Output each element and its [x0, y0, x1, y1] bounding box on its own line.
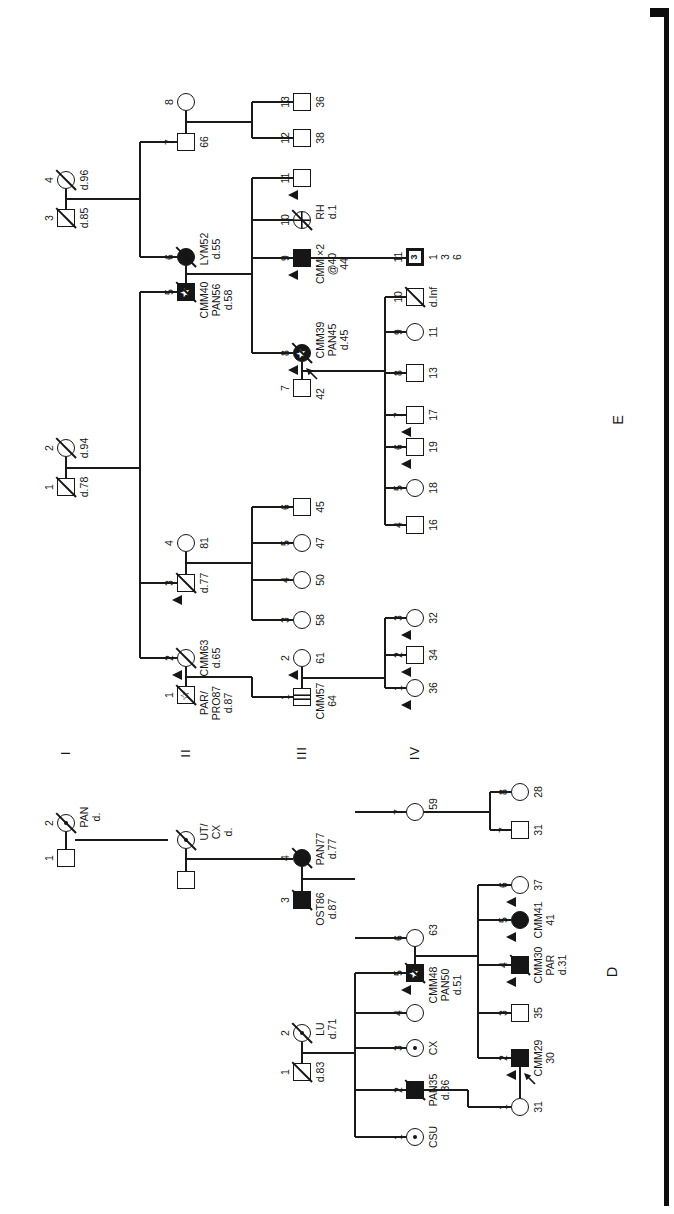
female-symbol	[511, 911, 529, 929]
individual-number: 1	[279, 675, 291, 719]
annotation-line: 32	[427, 576, 439, 660]
dysplastic-nevi-triangle-icon	[506, 897, 516, 907]
person-e-iv-8: 813	[406, 351, 424, 395]
person-e-ii-6: 6LYM52d.55	[177, 235, 195, 279]
person-d-v-8: 828	[511, 770, 529, 814]
annotation-line: 3	[439, 215, 451, 299]
male-symbol	[177, 133, 195, 151]
male-symbol	[406, 406, 424, 424]
person-annotation: d.94	[78, 406, 90, 490]
female-symbol	[511, 1098, 529, 1116]
generation-label-I: I	[58, 739, 73, 767]
annotation-line: d.1	[326, 170, 338, 254]
person-e-iii-11: 11	[293, 156, 311, 200]
female-symbol	[406, 323, 424, 341]
person-d-iv-4: 4	[406, 991, 424, 1035]
dysplastic-nevi-triangle-icon	[506, 932, 516, 942]
person-d-ii-spouse	[177, 858, 195, 902]
individual-number: 7	[163, 120, 175, 164]
male-symbol	[293, 498, 311, 516]
person-d-v-3: 335	[511, 991, 529, 1035]
person-annotation: LUd.71	[314, 987, 338, 1071]
individual-number: 2	[43, 801, 55, 845]
annotation-line: 28	[532, 750, 544, 834]
pedigree-line	[251, 102, 253, 138]
annotation-line: d.31	[556, 923, 568, 1007]
person-annotation: 59	[427, 762, 439, 846]
person-annotation: PAN77d.77	[314, 807, 338, 891]
individual-number: 1	[497, 1085, 509, 1129]
annotation-line: 44	[338, 222, 350, 306]
individual-number: 8	[392, 351, 404, 395]
person-d-iii-3: 3OST86d.87	[293, 878, 311, 922]
dysplastic-nevi-triangle-icon	[401, 459, 411, 469]
individual-number: 13	[279, 80, 291, 124]
person-annotation: 136	[427, 215, 463, 299]
person-e-iv-10: 10d.Inf	[406, 275, 424, 319]
individual-number: 1	[43, 465, 55, 509]
person-d-ii-spouse: UT/CXd.	[177, 818, 195, 862]
person-annotation: UT/CXd.	[198, 790, 234, 874]
annotation-line: PAN45	[326, 298, 338, 382]
annotation-line: d.96	[78, 138, 90, 222]
pedigree-line	[251, 178, 253, 353]
female-symbol	[293, 611, 311, 629]
annotation-line: d.55	[210, 207, 222, 291]
person-e-iii-13: 1336	[293, 80, 311, 124]
female-symbol	[406, 929, 424, 947]
annotation-line: 81	[198, 501, 210, 585]
annotation-line: LYM52	[198, 207, 210, 291]
dysplastic-nevi-triangle-icon	[401, 985, 411, 995]
annotation-line: CMM63	[198, 616, 210, 700]
person-e-iii-8: 8★CMM39PAN45d.45	[293, 331, 311, 375]
person-annotation: 45	[314, 465, 326, 549]
individual-number: 2	[43, 426, 55, 470]
person-e-i-3: 3d.85	[57, 196, 75, 240]
annotation-line: d.	[90, 775, 102, 859]
person-d-iv-7: 759	[406, 790, 424, 834]
generation-label-IV: IV	[407, 739, 422, 767]
person-d-i-2: 2PANd.	[57, 801, 75, 845]
female-symbol	[406, 1039, 424, 1057]
person-d-v-7: 731	[511, 808, 529, 852]
person-e-iii-3: 358	[293, 598, 311, 642]
individual-number: 8	[163, 80, 175, 124]
male-symbol	[293, 379, 311, 397]
annotation-line: PAN50	[439, 943, 451, 1027]
annotation-line: d.94	[78, 406, 90, 490]
male-symbol	[293, 93, 311, 111]
dysplastic-nevi-triangle-icon	[288, 270, 298, 280]
female-symbol	[406, 609, 424, 627]
male-symbol	[511, 1049, 529, 1067]
person-d-v-2: 2CMM2930	[511, 1036, 529, 1080]
pedigree-line	[467, 1090, 469, 1107]
annotation-line: PAN77	[314, 807, 326, 891]
annotation-line: UT/	[198, 790, 210, 874]
dysplastic-nevi-triangle-icon	[288, 190, 298, 200]
person-d-v-1: 131	[511, 1085, 529, 1129]
person-annotation: 36	[314, 60, 326, 144]
person-annotation: LYM52d.55	[198, 207, 222, 291]
individual-number: 6	[279, 485, 291, 529]
pedigree-e-label: E	[610, 405, 626, 435]
person-annotation: 28	[532, 750, 544, 834]
annotation-line: d.65	[210, 616, 222, 700]
person-d-iv-6: 663	[406, 916, 424, 960]
pedigree-line	[186, 562, 252, 564]
person-e-iii-6: 645	[293, 485, 311, 529]
generation-label-II: II	[178, 739, 193, 767]
individual-number: 3	[497, 991, 509, 1035]
female-symbol	[177, 93, 195, 111]
pedigree-d-label: D	[604, 957, 620, 987]
pedigree-sheet: I II III IV D E 1d.782d.943d.854d.961☆PA…	[0, 0, 674, 1214]
person-e-ii-8: 8	[177, 80, 195, 124]
individual-number: 3	[279, 878, 291, 922]
female-symbol	[293, 534, 311, 552]
person-e-iv-3: 332	[406, 596, 424, 640]
annotation-line: 63	[427, 888, 439, 972]
person-e-ii-2: 2CMM63d.65	[177, 636, 195, 680]
female-symbol	[406, 679, 424, 697]
female-symbol	[406, 803, 424, 821]
page-edge-mark	[650, 8, 664, 17]
person-e-iii-10: 10RHd.1	[293, 198, 311, 242]
